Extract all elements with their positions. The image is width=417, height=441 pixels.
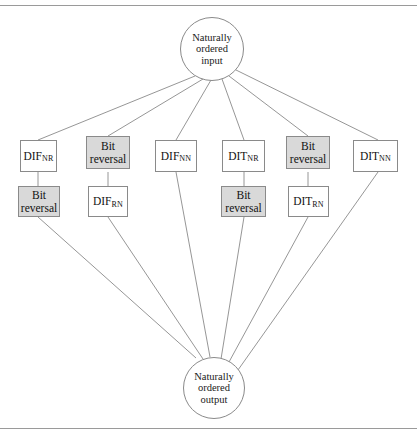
box-label-line-2: reversal [21,202,57,214]
box-label-line-1: Bit [236,189,250,201]
output-node-line-3: output [201,394,228,405]
box-label-subscript: RN [312,200,324,209]
edge-col5-to-output [229,217,308,362]
box-label: DIFNR [23,150,53,162]
box-dif-nn: DIFNN [155,140,197,172]
edge-input-to-col5 [229,76,308,136]
box-label-subscript: NN [379,154,391,163]
box-label-subscript: RN [112,200,124,209]
edge-input-to-col4 [222,79,244,140]
input-node-line-2: ordered [196,43,228,54]
box-bit-reversal-col1: Bit reversal [18,186,60,217]
edge-input-to-col3 [176,80,211,140]
box-label: DITNN [360,150,391,162]
box-label-line-1: Bit [101,140,115,152]
edge-input-to-col1 [38,76,195,140]
box-label-line-1: Bit [301,140,315,152]
box-label: DIFRN [93,195,123,207]
box-label-subscript: NR [247,154,259,163]
box-dit-rn: DITRN [288,186,329,217]
box-label-main: DIT [293,195,312,207]
edge-col1-to-output [38,217,196,358]
box-bit-reversal-col2: Bit reversal [86,136,130,169]
figure-canvas: Naturally ordered input DIFNR Bit revers… [0,0,417,441]
box-label: DITNR [228,150,259,162]
box-label-main: DIT [360,150,379,162]
box-label-main: DIF [93,195,112,207]
input-node-line-3: input [201,55,223,66]
page-rule-top [0,5,417,6]
output-node-line-1: Naturally [194,371,234,382]
box-dit-nr: DITNR [222,140,265,172]
box-label-main: DIT [228,150,247,162]
edge-col4-to-output [221,217,244,359]
edge-col2-to-output [108,217,203,359]
box-bit-reversal-col5: Bit reversal [286,136,330,169]
output-node-line-2: ordered [198,382,230,393]
edge-input-to-col2 [108,79,203,136]
box-dif-rn: DIFRN [88,186,128,217]
input-node-line-1: Naturally [192,32,232,43]
box-label-line-2: reversal [290,153,326,165]
box-label-subscript: NN [179,154,191,163]
box-bit-reversal-col4: Bit reversal [221,186,266,217]
box-dif-nr: DIFNR [20,140,57,172]
node-naturally-ordered-output: Naturally ordered output [183,357,245,419]
edge-input-to-col6 [236,70,378,140]
box-label-subscript: NR [42,154,54,163]
box-label-line-2: reversal [90,153,126,165]
box-label-main: DIF [161,150,180,162]
node-naturally-ordered-input: Naturally ordered input [180,17,244,81]
box-label-main: DIF [23,150,42,162]
box-dit-nn: DITNN [353,140,398,172]
box-label: DIFNN [161,150,192,162]
box-label-line-1: Bit [32,189,46,201]
edge-col3-to-output [176,172,210,357]
box-label-line-2: reversal [225,202,261,214]
box-label: DITRN [293,195,324,207]
page-rule-bottom [0,428,417,429]
